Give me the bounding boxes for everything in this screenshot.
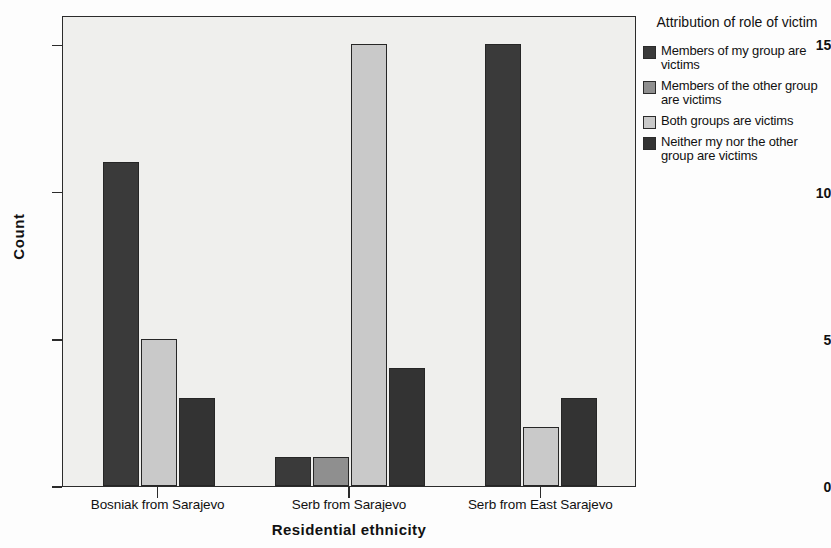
y-axis-tick: [52, 45, 62, 47]
y-axis-tick: [52, 192, 62, 194]
legend-item[interactable]: Neither my nor the other group are victi…: [643, 135, 831, 164]
y-axis-tick-label: 10: [785, 185, 831, 201]
legend: Attribution of role of victim Members of…: [643, 14, 831, 170]
legend-item[interactable]: Members of the other group are victims: [643, 79, 831, 108]
plot-area: [62, 16, 636, 487]
bar: [389, 368, 425, 486]
legend-swatch-my-group: [643, 46, 656, 59]
legend-item[interactable]: Members of my group are victims: [643, 44, 831, 73]
legend-item[interactable]: Both groups are victims: [643, 114, 831, 129]
chart-screenshot: 051015 Count Bosniak from SarajevoSerb f…: [0, 0, 831, 548]
bar: [275, 457, 311, 486]
legend-item-label: Members of my group are victims: [661, 44, 831, 73]
bars-layer: [63, 17, 635, 486]
bar: [179, 398, 215, 486]
legend-title: Attribution of role of victim: [643, 14, 831, 31]
x-axis-category-label: Bosniak from Sarajevo: [91, 497, 225, 512]
y-axis-tick: [52, 339, 62, 341]
x-axis-category-label: Serb from Sarajevo: [292, 497, 407, 512]
bar: [485, 44, 521, 486]
bar: [523, 427, 559, 486]
legend-item-list: Members of my group are victimsMembers o…: [643, 44, 831, 164]
legend-item-label: Members of the other group are victims: [661, 79, 831, 108]
x-axis-category-label: Serb from East Sarajevo: [468, 497, 613, 512]
legend-item-label: Both groups are victims: [661, 114, 793, 129]
y-axis-tick-label: 0: [785, 479, 831, 495]
x-axis-title: Residential ethnicity: [62, 521, 636, 538]
bar: [313, 457, 349, 486]
legend-item-label: Neither my nor the other group are victi…: [661, 135, 831, 164]
legend-swatch-both-groups: [643, 116, 656, 129]
y-axis-title: Count: [10, 167, 27, 307]
y-axis-tick-label: 5: [785, 332, 831, 348]
legend-swatch-neither-group: [643, 137, 656, 150]
legend-swatch-other-group: [643, 81, 656, 94]
bar: [351, 44, 387, 486]
bar: [103, 162, 139, 486]
bar: [561, 398, 597, 486]
bar: [141, 339, 177, 486]
y-axis-tick: [52, 486, 62, 488]
